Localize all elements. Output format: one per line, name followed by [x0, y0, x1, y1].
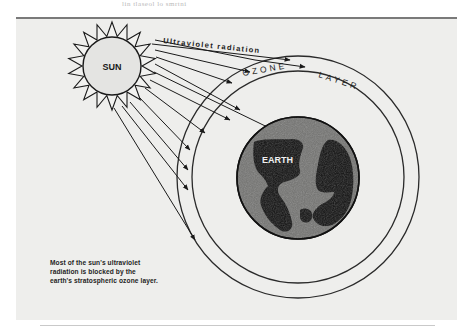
sun-label: SUN: [102, 62, 121, 72]
earth-label: EARTH: [262, 155, 293, 165]
uv-arrow: [114, 108, 195, 240]
uv-arrow: [122, 106, 188, 190]
caption-line: earth's stratospheric ozone layer.: [50, 276, 210, 285]
sun: SUN: [69, 22, 156, 110]
caption-line: radiation is blocked by the: [50, 267, 210, 276]
uv-arrow: [145, 88, 205, 133]
ozone-label-ozone: OZONE: [242, 60, 288, 78]
caption-line: Most of the sun's ultraviolet: [50, 258, 210, 267]
uv-arrow: [156, 57, 232, 83]
figure-caption: Most of the sun's ultraviolet radiation …: [50, 258, 210, 285]
radiation-label: Ultraviolet radiation: [163, 36, 261, 55]
bottom-rule: [40, 325, 435, 326]
earth: EARTH: [237, 117, 359, 239]
ozone-label-layer: LAYER: [317, 69, 360, 92]
uv-arrow: [130, 102, 188, 170]
